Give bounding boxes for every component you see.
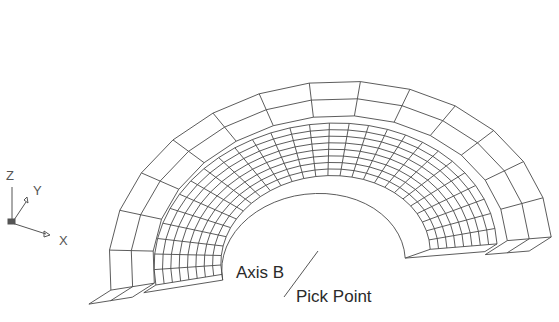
ucs-y-label: Y: [33, 183, 42, 198]
axis-b-label: Axis B: [236, 263, 284, 283]
ucs-icon: [8, 187, 50, 237]
ucs-x-label: X: [59, 233, 68, 248]
ucs-z-label: Z: [6, 168, 14, 183]
arch-wireframe: [89, 82, 551, 305]
pick-point-label: Pick Point: [296, 287, 372, 307]
